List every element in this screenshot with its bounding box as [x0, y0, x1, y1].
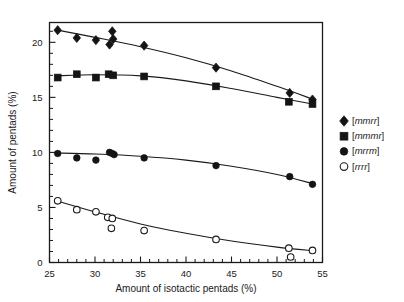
data-point-1: [213, 83, 220, 90]
data-point-2: [309, 181, 316, 188]
y-axis-tick-label: 10: [32, 147, 43, 158]
data-point-3: [213, 236, 220, 243]
y-axis-tick-label: 5: [37, 202, 42, 213]
x-axis-title: Amount of isotactic pentads (%): [115, 283, 256, 294]
legend-marker-2: [340, 148, 348, 156]
data-point-2: [286, 173, 293, 180]
data-point-2: [93, 157, 100, 164]
legend-label-2: [mrrm]: [352, 145, 379, 156]
x-axis-tick-label: 45: [226, 268, 237, 279]
data-point-1: [93, 74, 100, 81]
y-axis-tick-label: 20: [32, 37, 43, 48]
data-point-3: [108, 225, 115, 232]
data-point-3: [309, 247, 316, 254]
data-point-1: [309, 101, 316, 108]
legend-marker-0: [340, 116, 349, 127]
data-point-1: [54, 74, 61, 81]
y-axis-tick-label: 0: [37, 257, 42, 268]
x-axis-tick-label: 30: [90, 268, 101, 279]
x-axis-tick-label: 25: [44, 268, 55, 279]
y-axis-tick-label: 15: [32, 92, 43, 103]
data-point-2: [54, 150, 61, 157]
data-point-1: [110, 72, 117, 79]
data-point-3: [54, 198, 61, 205]
data-point-3: [93, 209, 100, 216]
scatter-plot: 2530354045505505101520Amount of isotacti…: [0, 0, 404, 302]
x-axis-tick-label: 35: [135, 268, 146, 279]
plot-frame: [50, 23, 323, 263]
data-point-3: [286, 245, 293, 252]
data-point-3: [287, 254, 294, 261]
data-point-2: [213, 162, 220, 169]
data-point-0: [109, 27, 117, 36]
data-point-0: [140, 41, 148, 50]
legend-label-1: [mmmr]: [352, 130, 384, 141]
data-point-2: [141, 155, 148, 162]
data-point-2: [111, 151, 118, 158]
legend-marker-1: [340, 132, 348, 140]
chart-figure: 2530354045505505101520Amount of isotacti…: [0, 0, 404, 302]
data-point-1: [141, 73, 148, 80]
y-axis-title: Amount of pentads (%): [7, 91, 18, 193]
legend-marker-3: [340, 163, 348, 171]
trend-line-3: [55, 200, 315, 251]
data-point-0: [212, 63, 220, 72]
x-axis-tick-label: 55: [317, 268, 328, 279]
data-point-3: [74, 206, 81, 213]
data-point-1: [285, 98, 292, 105]
data-point-0: [54, 26, 62, 35]
data-point-1: [73, 71, 80, 78]
legend-label-0: [mmrr]: [352, 115, 379, 126]
data-point-2: [74, 155, 81, 162]
data-point-3: [109, 215, 116, 222]
data-point-3: [141, 227, 148, 234]
x-axis-tick-label: 50: [272, 268, 283, 279]
x-axis-tick-label: 40: [181, 268, 192, 279]
legend-label-3: [rrrr]: [352, 161, 370, 172]
